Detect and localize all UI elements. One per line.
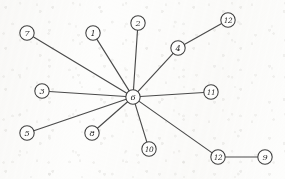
graph-edge bbox=[49, 91, 126, 96]
edge-layer bbox=[33, 24, 258, 157]
graph-node-label: 4 bbox=[174, 43, 180, 53]
graph-node-label: 11 bbox=[207, 88, 216, 97]
graph-node-label: 3 bbox=[39, 86, 44, 96]
graph-node-label: 5 bbox=[24, 128, 29, 138]
graph-node-label: 9 bbox=[262, 152, 267, 162]
graph-edge bbox=[97, 39, 129, 91]
graph-node-label: 8 bbox=[89, 128, 94, 138]
graph-node-label: 6 bbox=[130, 92, 135, 102]
graph-node[interactable]: 5 bbox=[20, 126, 34, 140]
graph-node-label: 1 bbox=[90, 28, 95, 38]
graph-node[interactable]: 12 bbox=[221, 13, 235, 27]
graph-edge bbox=[138, 53, 173, 91]
graph-node[interactable]: 3 bbox=[35, 84, 49, 98]
graph-node[interactable]: 11 bbox=[204, 85, 218, 99]
graph-node[interactable]: 10 bbox=[142, 142, 156, 156]
graph-edge bbox=[133, 30, 137, 90]
graph-node[interactable]: 8 bbox=[85, 126, 99, 140]
graph-node[interactable]: 7 bbox=[20, 26, 34, 40]
graph-node[interactable]: 9 bbox=[258, 150, 272, 164]
graph-node[interactable]: 4 bbox=[171, 41, 185, 55]
graph-edge bbox=[135, 104, 147, 142]
graph-canvas: 71241236115810129 bbox=[0, 0, 285, 179]
graph-node-label: 12 bbox=[224, 16, 233, 25]
graph-node[interactable]: 1 bbox=[86, 26, 100, 40]
node-layer: 71241236115810129 bbox=[20, 13, 272, 164]
graph-node[interactable]: 2 bbox=[131, 16, 145, 30]
graph-diagram-page: 71241236115810129 bbox=[0, 0, 285, 179]
graph-edge bbox=[97, 102, 127, 129]
graph-node[interactable]: 6 bbox=[126, 90, 140, 104]
graph-node-label: 12 bbox=[214, 153, 223, 162]
graph-edge bbox=[184, 24, 221, 45]
graph-node-label: 10 bbox=[145, 145, 154, 154]
graph-node-label: 2 bbox=[134, 18, 140, 28]
graph-node-label: 7 bbox=[24, 28, 30, 38]
graph-edge bbox=[140, 92, 204, 96]
graph-node[interactable]: 12 bbox=[211, 150, 225, 164]
